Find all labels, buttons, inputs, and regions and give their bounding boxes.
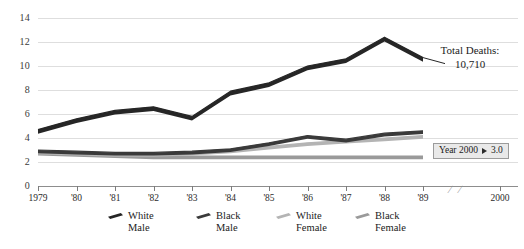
x-tick-label-81: '81 [109,193,120,203]
x-tick-85 [269,186,270,191]
x-tick-label-85: '85 [263,193,274,203]
legend-label-line1: White [128,210,154,222]
legend-label: BlackMale [216,210,241,233]
y-tick-label-0: 0 [2,181,30,191]
legend-label-line2: Male [216,222,241,234]
x-tick-label-89: '89 [417,193,428,203]
legend-item-white-female[interactable]: WhiteFemale [276,210,327,233]
y-tick-label-10: 10 [2,61,30,71]
total-deaths-value: 10,710 [422,58,518,72]
x-tick-label-88: '88 [379,193,390,203]
series-band-white-male [38,37,423,134]
legend-label-line2: Female [375,222,406,234]
x-tick-label-80: '80 [71,193,82,203]
x-tick-label-82: '82 [148,193,159,203]
legend-label: WhiteFemale [296,210,327,233]
x-axis-ticks: 1979'80'81'82'83'84'85'86'87'88'892000/ … [38,186,518,192]
x-tick-2000 [500,186,501,191]
x-tick-84 [231,186,232,191]
y-tick-label-4: 4 [2,133,30,143]
legend: WhiteMaleBlackMaleWhiteFemaleBlackFemale [0,210,524,248]
total-deaths-label: Total Deaths: [422,44,518,58]
legend-swatch-icon [196,213,211,219]
legend-label-line1: Black [375,210,406,222]
legend-swatch-icon [355,213,370,219]
legend-item-white-male[interactable]: WhiteMale [108,210,154,233]
x-tick-86 [308,186,309,191]
triangle-right-icon [482,148,487,154]
x-tick-83 [192,186,193,191]
x-tick-82 [154,186,155,191]
x-tick-label-86: '86 [302,193,313,203]
legend-label: WhiteMale [128,210,154,233]
x-tick-label-2000: 2000 [491,193,510,203]
year-2000-label: Year 2000 [439,145,478,156]
legend-label-line2: Female [296,222,327,234]
year-2000-value: 3.0 [491,145,503,156]
legend-swatch-icon [276,213,291,219]
y-axis-labels: 02468101214 [0,18,30,186]
y-tick-label-12: 12 [2,37,30,47]
chart-root: 02468101214 1979'80'81'82'83'84'85'86'87… [0,0,524,249]
total-deaths-annotation: Total Deaths: 10,710 [422,44,518,71]
y-tick-label-2: 2 [2,157,30,167]
x-tick-1979 [38,186,39,191]
y-tick-label-6: 6 [2,109,30,119]
legend-label: BlackFemale [375,210,406,233]
x-tick-label-83: '83 [186,193,197,203]
x-tick-label-84: '84 [225,193,236,203]
y-tick-label-8: 8 [2,85,30,95]
x-tick-label-87: '87 [340,193,351,203]
legend-label-line1: White [296,210,327,222]
legend-item-black-male[interactable]: BlackMale [196,210,241,233]
x-tick-81 [115,186,116,191]
x-axis-break-icon: / / [447,185,465,194]
year-2000-badge[interactable]: Year 2000 3.0 [433,143,509,159]
legend-label-line1: Black [216,210,241,222]
x-tick-80 [77,186,78,191]
x-tick-89 [423,186,424,191]
legend-label-line2: Male [128,222,154,234]
legend-item-black-female[interactable]: BlackFemale [355,210,406,233]
legend-swatch-icon [108,213,123,219]
x-tick-label-1979: 1979 [29,193,48,203]
x-tick-88 [385,186,386,191]
y-tick-label-14: 14 [2,13,30,23]
x-tick-87 [346,186,347,191]
